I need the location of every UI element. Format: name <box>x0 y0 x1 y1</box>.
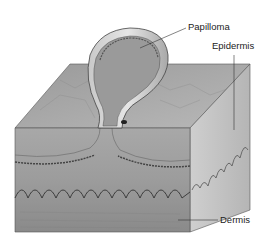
skin-front-face <box>15 128 190 232</box>
skin-diagram <box>0 0 268 244</box>
label-dermis: Dermis <box>220 214 250 225</box>
label-papilloma: Papilloma <box>188 21 230 32</box>
label-epidermis: Epidermis <box>212 40 254 51</box>
